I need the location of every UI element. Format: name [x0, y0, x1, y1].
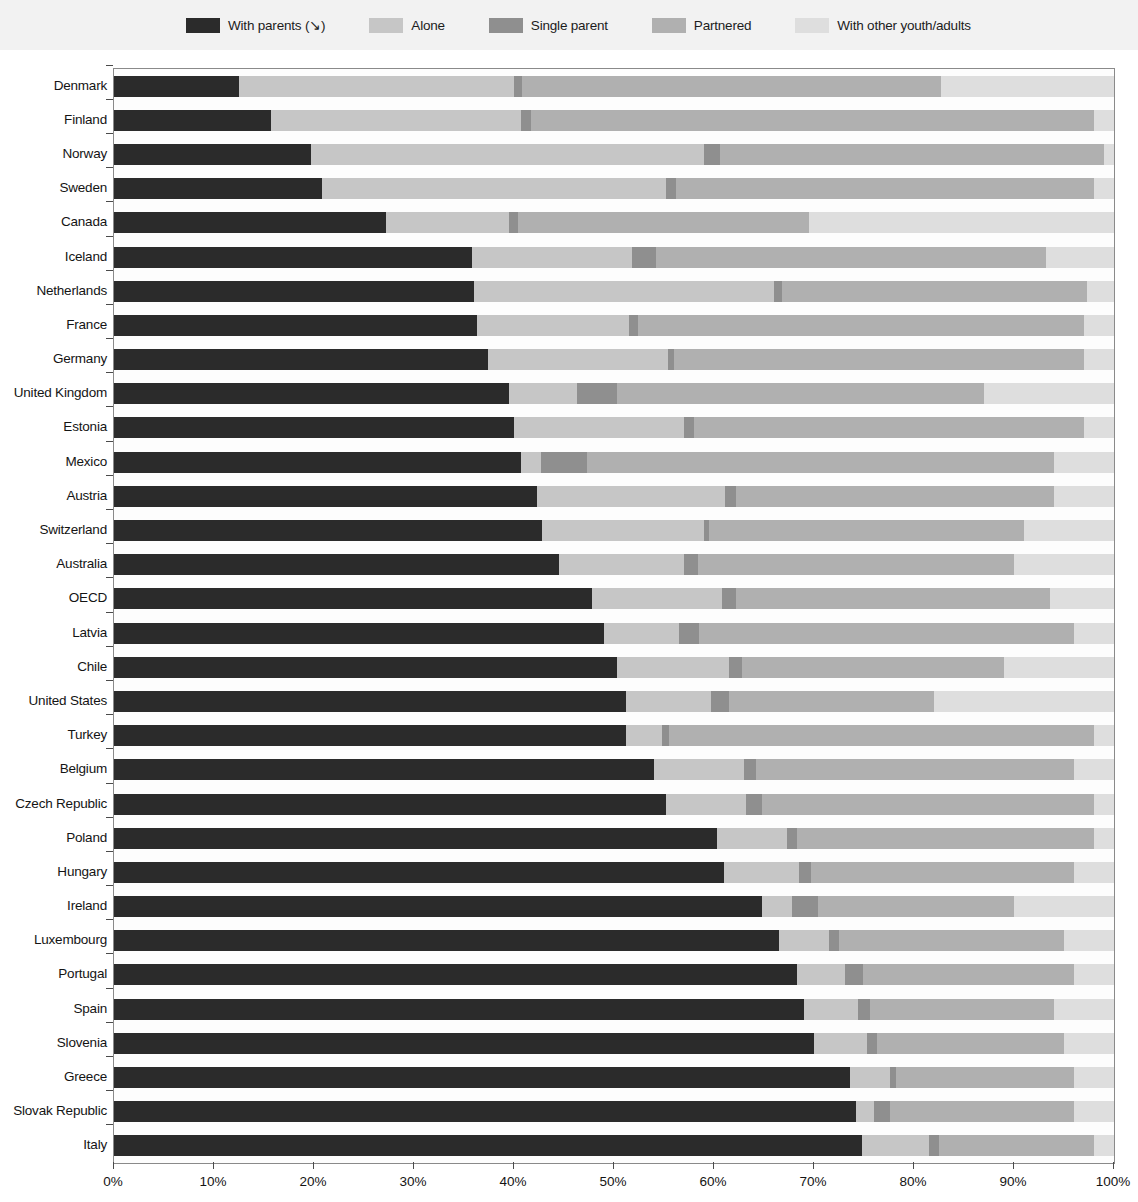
- bar-segment: [114, 930, 779, 951]
- bar-segment: [736, 588, 1050, 609]
- bar-segment: [698, 554, 1014, 575]
- bar-segment: [676, 178, 1094, 199]
- x-axis-tick: [1113, 1162, 1114, 1169]
- bar-segment: [474, 281, 774, 302]
- y-axis-tick: [106, 748, 113, 749]
- bar-segment: [666, 794, 746, 815]
- category-label: Germany: [0, 348, 107, 369]
- category-label: Norway: [0, 143, 107, 164]
- y-axis-tick: [106, 919, 113, 920]
- bar-segment: [804, 999, 858, 1020]
- bar-segment: [779, 930, 829, 951]
- y-axis-tick: [106, 1056, 113, 1057]
- bar-segment: [736, 486, 1054, 507]
- y-axis-tick: [106, 851, 113, 852]
- bar-row: [114, 110, 1114, 131]
- chart-area: DenmarkFinlandNorwaySwedenCanadaIcelandN…: [0, 50, 1138, 1202]
- bar-row: [114, 828, 1114, 849]
- y-axis-tick: [106, 817, 113, 818]
- bar-segment: [114, 725, 626, 746]
- legend-item[interactable]: With parents (↘): [186, 17, 325, 33]
- x-axis-tick: [113, 1162, 114, 1169]
- bar-segment: [1004, 657, 1114, 678]
- bar-row: [114, 1135, 1114, 1156]
- legend-item[interactable]: Partnered: [652, 18, 752, 33]
- bar-segment: [114, 657, 617, 678]
- bar-segment: [1046, 247, 1114, 268]
- bar-segment: [722, 588, 736, 609]
- x-axis-tick: [713, 1162, 714, 1169]
- category-label: Sweden: [0, 177, 107, 198]
- bar-segment: [541, 452, 587, 473]
- bar-row: [114, 486, 1114, 507]
- y-axis-tick: [106, 543, 113, 544]
- legend-item-label: Single parent: [531, 18, 608, 33]
- bar-segment: [829, 930, 839, 951]
- bar-segment: [114, 964, 797, 985]
- bar-segment: [1074, 862, 1114, 883]
- bar-row: [114, 144, 1114, 165]
- bar-segment: [1094, 725, 1114, 746]
- bar-segment: [114, 862, 724, 883]
- bar-segment: [1094, 828, 1114, 849]
- bar-segment: [592, 588, 722, 609]
- bar-row: [114, 247, 1114, 268]
- x-axis-label: 30%: [399, 1174, 426, 1189]
- bar-segment: [934, 691, 1114, 712]
- bar-segment: [1064, 930, 1114, 951]
- bar-segment: [845, 964, 863, 985]
- bar-segment: [711, 691, 729, 712]
- x-axis-label: 80%: [899, 1174, 926, 1189]
- bar-row: [114, 554, 1114, 575]
- bar-row: [114, 178, 1114, 199]
- bar-segment: [114, 828, 717, 849]
- bar-segment: [114, 1067, 850, 1088]
- bar-segment: [1087, 281, 1114, 302]
- y-axis-tick: [106, 783, 113, 784]
- legend-item[interactable]: With other youth/adults: [795, 18, 970, 33]
- legend-item[interactable]: Single parent: [489, 18, 608, 33]
- legend-item-label: With other youth/adults: [837, 18, 970, 33]
- bar-segment: [114, 691, 626, 712]
- bar-segment: [522, 76, 941, 97]
- legend-item-label: With parents (↘): [228, 17, 325, 33]
- bar-row: [114, 349, 1114, 370]
- bar-segment: [874, 1101, 890, 1122]
- bar-row: [114, 623, 1114, 644]
- category-label: Austria: [0, 485, 107, 506]
- bar-segment: [792, 896, 818, 917]
- y-axis-tick: [106, 133, 113, 134]
- bar-segment: [521, 452, 541, 473]
- bar-segment: [114, 999, 804, 1020]
- category-label: Luxembourg: [0, 929, 107, 950]
- bar-segment: [1084, 349, 1114, 370]
- bar-segment: [114, 417, 514, 438]
- x-axis-label: 60%: [699, 1174, 726, 1189]
- bar-segment: [694, 417, 1084, 438]
- bar-segment: [662, 725, 669, 746]
- bar-segment: [720, 144, 1104, 165]
- bar-segment: [863, 964, 1074, 985]
- y-axis-tick: [106, 612, 113, 613]
- bar-segment: [729, 657, 742, 678]
- bar-segment: [518, 212, 809, 233]
- bar-row: [114, 657, 1114, 678]
- bar-segment: [756, 759, 1074, 780]
- bar-segment: [666, 178, 676, 199]
- bar-segment: [114, 759, 654, 780]
- bar-segment: [709, 520, 1024, 541]
- category-label: Australia: [0, 553, 107, 574]
- bar-row: [114, 417, 1114, 438]
- y-axis-tick: [106, 475, 113, 476]
- legend-item[interactable]: Alone: [369, 18, 445, 33]
- bar-row: [114, 588, 1114, 609]
- bar-segment: [114, 1033, 814, 1054]
- legend-swatch-icon: [489, 18, 523, 33]
- bar-segment: [669, 725, 1094, 746]
- bar-segment: [811, 862, 1074, 883]
- bar-segment: [587, 452, 1054, 473]
- bar-segment: [577, 383, 617, 404]
- bar-segment: [856, 1101, 874, 1122]
- bar-segment: [629, 315, 638, 336]
- category-label: Denmark: [0, 75, 107, 96]
